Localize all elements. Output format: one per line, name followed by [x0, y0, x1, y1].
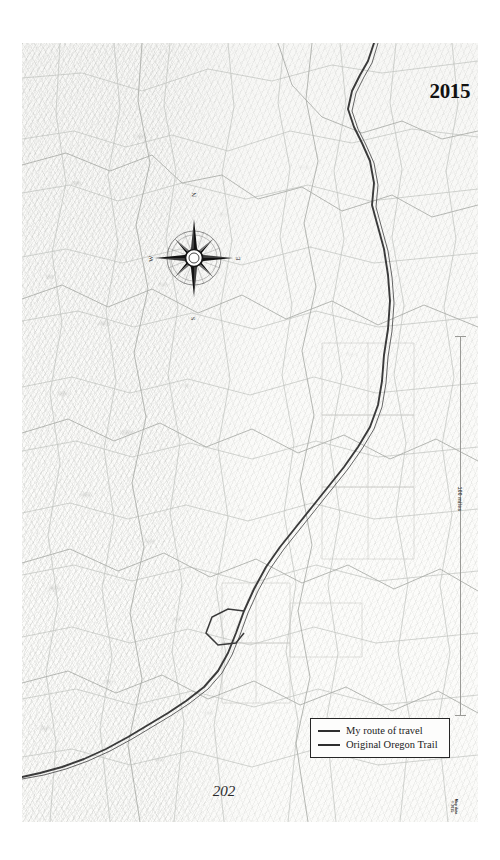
- legend-item-my-route: My route of travel: [318, 724, 441, 738]
- map-canvas[interactable]: N E S W 2015 100 miles My route of trave…: [22, 43, 478, 822]
- scale-bar-cap-top: [455, 336, 466, 337]
- scale-bar-label: 100 miles: [457, 475, 463, 523]
- legend-label-oregon-trail: Original Oregon Trail: [346, 740, 438, 751]
- compass-label-south: S: [189, 317, 196, 321]
- township-grid: [222, 343, 414, 703]
- my-route-of-travel-line: [22, 43, 394, 779]
- compass-label-west: W: [147, 255, 154, 261]
- compass-label-north: N: [190, 192, 197, 197]
- legend-line-swatch-oregon-trail: [318, 744, 340, 746]
- scale-bar-cap-bottom: [455, 715, 466, 716]
- map-vector-layer: [22, 43, 478, 822]
- scale-bar: 100 miles: [453, 336, 467, 716]
- legend-line-swatch-my-route: [318, 730, 340, 731]
- map-page: N E S W 2015 100 miles My route of trave…: [0, 0, 500, 860]
- scale-bar-line: [460, 336, 461, 716]
- compass-rose-icon: [154, 205, 234, 311]
- map-year-label: 2015: [430, 79, 470, 104]
- page-number: 202: [0, 783, 500, 800]
- original-oregon-trail-line: [22, 43, 390, 777]
- page-number-value: 202: [213, 783, 236, 799]
- road-network-major: [22, 43, 478, 822]
- map-legend: My route of travel Original Oregon Trail: [310, 718, 450, 758]
- legend-item-oregon-trail: Original Oregon Trail: [318, 738, 441, 752]
- legend-label-my-route: My route of travel: [346, 726, 423, 737]
- compass-rose: N E S W: [146, 189, 242, 327]
- compass-label-east: E: [234, 256, 241, 260]
- road-network-minor: [22, 43, 478, 822]
